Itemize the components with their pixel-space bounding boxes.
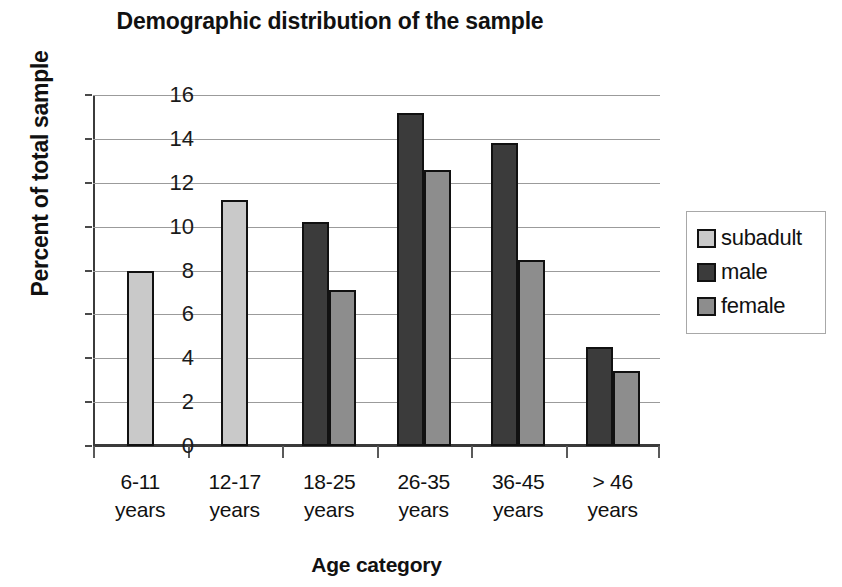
legend-swatch-male-icon (697, 263, 716, 282)
y-tick-label-4: 4 (134, 345, 194, 371)
x-category-label-line: years (93, 496, 188, 524)
x-tick-mark-3 (377, 446, 379, 458)
y-tick-label-0: 0 (134, 433, 194, 459)
bar-male-5 (586, 347, 613, 446)
y-tick-label-12: 12 (134, 170, 194, 196)
legend-item-male[interactable]: male (697, 255, 815, 289)
x-category-label-line: years (188, 496, 283, 524)
x-tick-mark-4 (471, 446, 473, 458)
x-category-label-line: > 46 (566, 468, 661, 496)
x-tick-mark-edge-0 (93, 446, 95, 458)
x-category-label-3: 26-35years (377, 468, 472, 524)
x-category-label-0: 6-11years (93, 468, 188, 524)
x-category-label-line: years (566, 496, 661, 524)
bar-female-2 (329, 290, 356, 446)
legend-item-female[interactable]: female (697, 289, 815, 323)
x-category-label-line: years (471, 496, 566, 524)
y-tick-label-2: 2 (134, 389, 194, 415)
y-tick-mark-16 (85, 94, 92, 96)
y-tick-mark-14 (85, 138, 92, 140)
x-category-label-1: 12-17years (188, 468, 283, 524)
y-tick-label-16: 16 (134, 82, 194, 108)
x-category-label-line: 18-25 (282, 468, 377, 496)
y-tick-mark-4 (85, 357, 92, 359)
y-tick-label-10: 10 (134, 214, 194, 240)
x-axis-title: Age category (93, 553, 660, 577)
legend-label-male: male (721, 259, 768, 285)
x-tick-mark-2 (282, 446, 284, 458)
y-tick-mark-6 (85, 313, 92, 315)
x-category-label-line: 36-45 (471, 468, 566, 496)
legend-swatch-female-icon (697, 297, 716, 316)
x-category-label-line: 6-11 (93, 468, 188, 496)
y-tick-mark-2 (85, 401, 92, 403)
legend-swatch-subadult-icon (697, 229, 716, 248)
x-category-label-2: 18-25years (282, 468, 377, 524)
chart-title: Demographic distribution of the sample (0, 8, 660, 35)
legend: subadultmalefemale (686, 211, 826, 334)
y-tick-label-6: 6 (134, 301, 194, 327)
bar-male-3 (397, 113, 424, 446)
y-tick-label-14: 14 (134, 126, 194, 152)
bar-female-3 (424, 170, 451, 446)
legend-label-subadult: subadult (721, 225, 802, 251)
bar-female-4 (518, 260, 545, 446)
bar-male-2 (302, 222, 329, 446)
bar-subadult-1 (221, 200, 248, 446)
y-tick-mark-0 (85, 445, 92, 447)
y-tick-label-8: 8 (134, 258, 194, 284)
bar-male-4 (491, 143, 518, 446)
legend-label-female: female (721, 293, 785, 319)
y-axis-title: Percent of total sample (27, 0, 54, 354)
x-tick-mark-edge-6 (658, 446, 660, 458)
x-category-label-4: 36-45years (471, 468, 566, 524)
x-category-label-line: 12-17 (188, 468, 283, 496)
y-tick-mark-12 (85, 182, 92, 184)
bar-female-5 (613, 371, 640, 446)
x-category-label-line: years (377, 496, 472, 524)
y-tick-mark-10 (85, 226, 92, 228)
y-tick-mark-8 (85, 270, 92, 272)
x-tick-mark-5 (566, 446, 568, 458)
x-category-label-5: > 46years (566, 468, 661, 524)
legend-item-subadult[interactable]: subadult (697, 221, 815, 255)
x-category-label-line: 26-35 (377, 468, 472, 496)
x-category-label-line: years (282, 496, 377, 524)
